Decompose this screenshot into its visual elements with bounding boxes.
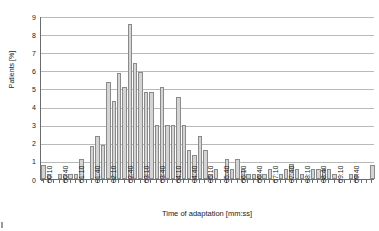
x-axis-tick-label: 00:40 [62, 165, 69, 183]
bar-group [41, 17, 374, 179]
bar [327, 169, 331, 179]
x-axis-tick-label: 06:10 [240, 165, 247, 183]
y-axis-tick-label: 9 [6, 14, 36, 21]
bar [133, 63, 137, 179]
x-axis-tick-mark [361, 180, 362, 183]
bar [101, 145, 105, 179]
x-axis-tick-mark [247, 180, 248, 183]
bar [262, 174, 266, 179]
x-axis-tick-mark [150, 180, 151, 183]
x-axis-tick-mark [285, 180, 286, 183]
y-axis-tick-group: 0123456789 [4, 0, 36, 231]
x-axis-tick-mark [167, 180, 168, 183]
x-axis-tick-mark [199, 180, 200, 183]
bar [128, 24, 132, 179]
bar [295, 169, 299, 179]
x-axis-tick-mark [280, 180, 281, 183]
x-axis-tick-label: 07:10 [272, 165, 279, 183]
x-axis-tick-mark [86, 180, 87, 183]
x-axis-tick-mark [188, 180, 189, 183]
bar [311, 169, 315, 179]
x-axis-tick-mark [269, 180, 270, 183]
x-axis-tick-label: 00:10 [46, 165, 53, 183]
x-axis-tick-mark [134, 180, 135, 183]
x-axis-tick-mark [220, 180, 221, 183]
y-axis-tick-label: 0 [6, 177, 36, 184]
x-axis-tick-mark [301, 180, 302, 183]
x-axis-tick-mark [70, 180, 71, 183]
page-corner-mark [1, 222, 3, 228]
x-axis-tick-mark [75, 180, 76, 183]
x-axis-tick-mark [172, 180, 173, 183]
x-axis-tick-label: 01:10 [78, 165, 85, 183]
bar [230, 169, 234, 179]
x-axis-tick-label: 04:10 [175, 165, 182, 183]
x-axis-title: Time of adaptation [mm:ss] [40, 209, 374, 218]
bar [182, 125, 186, 179]
x-axis-tick-mark [328, 180, 329, 183]
x-axis-tick-label: 05:40 [223, 165, 230, 183]
x-axis-tick-mark [296, 180, 297, 183]
x-axis-tick-mark [124, 180, 125, 183]
x-axis-tick-mark [264, 180, 265, 183]
x-axis-tick-mark [102, 180, 103, 183]
x-axis-tick-mark [312, 180, 313, 183]
x-axis-tick-label: 08:10 [304, 165, 311, 183]
x-axis-tick-label: 02:10 [110, 165, 117, 183]
x-axis-tick-label: 09:10 [337, 165, 344, 183]
x-axis-tick-mark [91, 180, 92, 183]
x-axis-tick-mark [204, 180, 205, 183]
y-axis-tick-label: 4 [6, 104, 36, 111]
x-axis-tick-mark [253, 180, 254, 183]
x-axis-tick-mark [215, 180, 216, 183]
x-axis-tick-label: 03:10 [143, 165, 150, 183]
bar [198, 136, 202, 179]
bar [138, 72, 142, 179]
histogram-figure: 0123456789 Patients [%] 00:1000:4001:100… [0, 0, 379, 231]
bar [279, 174, 283, 179]
x-axis-tick-label: 07:40 [288, 165, 295, 183]
x-axis-tick-label: 02:40 [127, 165, 134, 183]
x-axis-tick-label: 03:40 [159, 165, 166, 183]
x-axis-tick-mark [334, 180, 335, 183]
x-axis-tick-label: 01:40 [94, 165, 101, 183]
x-axis-tick-mark [156, 180, 157, 183]
y-axis-tick-label: 3 [6, 122, 36, 129]
bar [68, 174, 72, 179]
x-axis-tick-mark [107, 180, 108, 183]
x-axis-tick-label: 08:40 [320, 165, 327, 183]
y-axis-tick-label: 1 [6, 158, 36, 165]
x-axis-tick-mark [118, 180, 119, 183]
x-axis-tick-label: 09:40 [353, 165, 360, 183]
x-axis-tick-mark [237, 180, 238, 183]
x-axis-tick-mark [344, 180, 345, 183]
x-axis-tick-mark [366, 180, 367, 183]
x-axis-tick-mark [53, 180, 54, 183]
x-axis-tick-label: 05:10 [207, 165, 214, 183]
x-axis-tick-mark [140, 180, 141, 183]
plot-area [40, 17, 374, 180]
x-axis-tick-mark [317, 180, 318, 183]
x-axis-tick-label: 04:40 [191, 165, 198, 183]
bar [165, 125, 169, 179]
x-axis-tick-label: 06:40 [256, 165, 263, 183]
x-axis-tick-mark [371, 180, 372, 183]
y-axis-title: Patients [%] [8, 38, 15, 102]
x-axis-tick-mark [231, 180, 232, 183]
x-axis-tick-mark [43, 180, 44, 183]
x-axis-tick-mark [350, 180, 351, 183]
bar [117, 73, 121, 179]
y-axis-tick-label: 2 [6, 140, 36, 147]
x-axis-tick-mark [183, 180, 184, 183]
x-axis-tick-mark [59, 180, 60, 183]
bar [370, 165, 374, 179]
bar [214, 169, 218, 179]
